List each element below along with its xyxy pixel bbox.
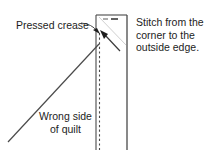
stitch-instruction-label: Stitch from the corner to the outside ed… [136,16,204,54]
wrong-side-line-2: of quilt [39,123,92,136]
stitch-instruction-line-2: corner to the [136,29,195,41]
stitch-instruction-line-3: outside edge. [136,41,199,53]
strip-faint-diagonal [99,17,126,45]
stitch-instruction-line-1: Stitch from the [136,16,204,28]
quilt-stitching-diagram: Pressed crease Stitch from the corner to… [0,0,210,150]
pressed-crease-label: Pressed crease [16,19,89,32]
wrong-side-line-1: Wrong side [39,110,92,122]
wrong-side-label: Wrong sideof quilt [39,110,92,135]
